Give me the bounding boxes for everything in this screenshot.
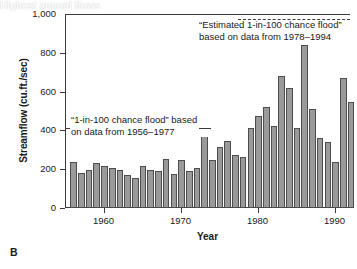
x-axis-tick-label: 1980 <box>238 215 278 226</box>
bar <box>332 162 339 208</box>
annotation-new-flood-line1: “Estimated 1-in-100 chance flood” <box>199 19 342 31</box>
bar <box>201 128 208 208</box>
bar <box>325 142 332 208</box>
bar <box>93 163 100 208</box>
bar <box>301 45 308 208</box>
x-axis-tick <box>335 208 336 213</box>
y-axis-tick-label: 600 <box>40 86 56 97</box>
bar <box>70 162 77 208</box>
bar <box>171 174 178 208</box>
figure-panel-b: Streamflow (cu.ft./sec) 02004006008001,0… <box>0 0 357 269</box>
y-axis-tick <box>60 92 65 93</box>
bar <box>240 157 247 208</box>
annotation-old-flood-line2: on data from 1956–1977 <box>71 126 197 138</box>
bar <box>294 128 301 208</box>
y-axis-tick-label: 200 <box>40 163 56 174</box>
bar <box>194 168 201 208</box>
bar <box>163 159 170 208</box>
plot-top-rule <box>65 14 350 15</box>
bar <box>186 171 193 208</box>
y-axis-tick <box>60 130 65 131</box>
bar <box>155 171 162 208</box>
bar <box>348 102 355 208</box>
x-axis-tick-label: 1970 <box>161 215 201 226</box>
bar <box>147 170 154 208</box>
x-axis-tick <box>181 208 182 213</box>
bar <box>248 128 255 208</box>
bar <box>232 155 239 208</box>
x-axis-tick <box>258 208 259 213</box>
bar <box>140 166 147 208</box>
bar <box>263 107 270 208</box>
x-axis-title: Year <box>65 231 350 242</box>
y-axis-tick <box>60 169 65 170</box>
y-axis-title: Streamflow (cu.ft./sec) <box>18 26 29 196</box>
x-axis-tick-label: 1960 <box>84 215 124 226</box>
x-axis-tick-label: 1990 <box>315 215 355 226</box>
bar <box>217 147 224 208</box>
y-axis-tick-label: 800 <box>40 47 56 58</box>
bar <box>317 138 324 208</box>
bar <box>101 166 108 208</box>
bar <box>224 141 231 208</box>
bar <box>255 116 262 208</box>
y-axis-tick-label: 0 <box>51 202 56 213</box>
y-axis-tick-label: 400 <box>40 124 56 135</box>
annotation-new-flood-line2: based on data from 1978–1994 <box>199 31 342 43</box>
bar <box>286 88 293 208</box>
bar <box>271 126 278 208</box>
bar <box>340 78 347 208</box>
annotation-old-flood-line1: “1-in-100 chance flood” based <box>71 114 197 126</box>
bar <box>117 170 124 208</box>
bar <box>278 76 285 208</box>
y-axis-tick <box>60 53 65 54</box>
annotation-new-flood: “Estimated 1-in-100 chance flood” based … <box>199 19 342 42</box>
y-axis-tick-label: 1,000 <box>32 8 56 19</box>
bar <box>309 109 316 208</box>
x-axis-tick <box>104 208 105 213</box>
bar <box>209 160 216 208</box>
bar <box>109 168 116 208</box>
bar <box>78 173 85 208</box>
y-axis-tick <box>60 208 65 209</box>
panel-letter: B <box>10 246 18 258</box>
bar <box>124 175 131 208</box>
bar <box>178 160 185 208</box>
annotation-old-flood: “1-in-100 chance flood” based on data fr… <box>70 113 199 137</box>
bar <box>86 170 93 208</box>
bar <box>132 178 139 208</box>
